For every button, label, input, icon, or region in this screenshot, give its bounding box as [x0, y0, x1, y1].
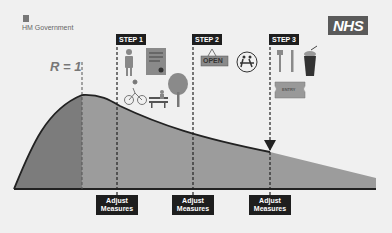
measures-text: Measures [99, 205, 135, 213]
r-equals-1-label: R = 1 [50, 59, 81, 74]
cyclist-icon [125, 80, 147, 105]
drink-cup-icon [304, 46, 317, 76]
measures-text: Measures [175, 205, 211, 213]
document-icon [146, 48, 166, 75]
measures-text: Measures [252, 205, 288, 213]
cutlery-icon [277, 50, 294, 72]
step-2-label: STEP 2 [192, 34, 222, 45]
person-icon [125, 49, 133, 76]
adjust-text: Adjust [175, 197, 211, 205]
nhs-logo: NHS [328, 16, 368, 35]
open-sign-text: OPEN [203, 57, 223, 64]
adjust-measures-label-1: Adjust Measures [96, 195, 138, 215]
hm-government-label: HM Government [22, 24, 73, 31]
entry-ticket-text: ENTRY [282, 87, 295, 92]
park-bench-icon [149, 90, 168, 108]
step-1-label: STEP 1 [116, 34, 146, 45]
curve-area-before-peak [14, 95, 82, 189]
royal-crest-icon [22, 14, 30, 23]
adjust-measures-label-2: Adjust Measures [172, 195, 214, 215]
adjust-text: Adjust [252, 197, 288, 205]
arrow-down-icon [264, 140, 276, 151]
adjust-measures-label-3: Adjust Measures [249, 195, 291, 215]
hm-government-logo: HM Government [22, 14, 73, 31]
step-3-label: STEP 3 [269, 34, 299, 45]
tree-icon [168, 73, 188, 107]
school-children-icon [237, 52, 257, 72]
adjust-text: Adjust [99, 197, 135, 205]
